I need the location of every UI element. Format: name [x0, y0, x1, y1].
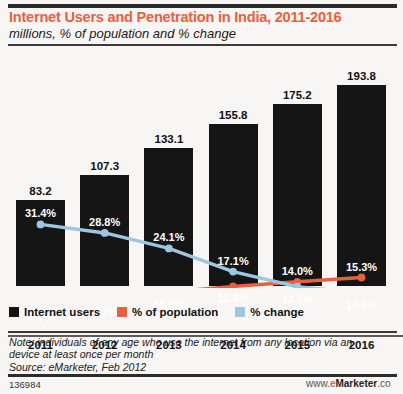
- legend-item-pct-of-population: % of population: [117, 306, 218, 318]
- note-line-1: Note: individuals of any age who use the…: [9, 336, 403, 348]
- footer-rule: [8, 374, 397, 377]
- top-rule: [8, 4, 397, 8]
- chart-legend: Internet users% of population% change: [9, 306, 321, 318]
- point-label--change-2014: 17.1%: [201, 255, 265, 267]
- marker-2013: [165, 245, 173, 253]
- marker-2016: [358, 274, 366, 282]
- line-series-overlay: [0, 48, 403, 288]
- emarketer-watermark: www.eMarketer.co: [306, 378, 391, 389]
- legend-label-pct-of-population: % of population: [132, 306, 218, 318]
- legend-label-pct-change: % change: [250, 306, 304, 318]
- marker-2011: [37, 220, 45, 228]
- legend-swatch-pct-change: [235, 307, 245, 317]
- subtitle-rule: [8, 44, 397, 46]
- chart-note: Note: individuals of any age who use the…: [9, 336, 403, 373]
- point-label--of-population-2015: 14.0%: [265, 265, 329, 277]
- point-label--change-2013: 24.1%: [137, 231, 201, 243]
- point-label--change-2015: 12.5%: [265, 293, 329, 305]
- marker-2012: [101, 229, 109, 237]
- legend-swatch-internet-users: [9, 307, 19, 317]
- legend-label-internet-users: Internet users: [24, 306, 100, 318]
- point-label--change-2016: 10.6%: [330, 299, 394, 311]
- line--of-population: [41, 278, 362, 288]
- marker-2014: [229, 268, 237, 276]
- chart-subtitle: millions, % of population and % change: [9, 26, 236, 41]
- chart-plot-area: 83.2107.3133.1155.8175.2193.8 31.4%7.0%2…: [0, 48, 403, 288]
- legend-item-pct-change: % change: [235, 306, 304, 318]
- point-label--of-population-2016: 15.3%: [330, 261, 394, 273]
- watermark-suffix: .co: [377, 378, 390, 389]
- note-source: Source: eMarketer, Feb 2012: [9, 361, 403, 373]
- watermark-prefix: www.: [306, 378, 330, 389]
- figure-id: 136984: [9, 379, 41, 390]
- chart-title: Internet Users and Penetration in India,…: [9, 9, 342, 25]
- marker-2014: [229, 283, 237, 288]
- point-label--of-population-2014: 12.6%: [201, 292, 265, 304]
- emarketer-chart-figure: Internet Users and Penetration in India,…: [0, 0, 403, 394]
- note-line-2: device at least once per month: [9, 348, 403, 360]
- point-label--change-2012: 28.8%: [73, 216, 137, 228]
- legend-swatch-pct-of-population: [117, 307, 127, 317]
- watermark-brand: Marketer: [335, 378, 377, 389]
- legend-item-internet-users: Internet users: [9, 306, 100, 318]
- point-label--change-2011: 31.4%: [9, 207, 73, 219]
- note-rule: [8, 331, 397, 333]
